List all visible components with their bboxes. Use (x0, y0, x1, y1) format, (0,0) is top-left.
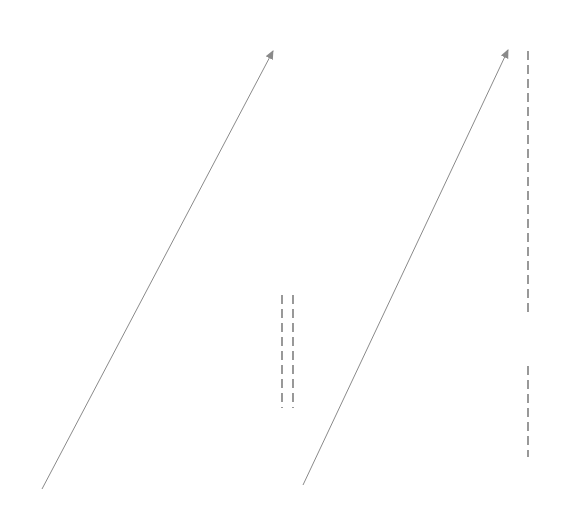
connector-overlay (0, 0, 582, 522)
arrows-group (42, 50, 508, 489)
dashed-lines-group (282, 51, 528, 457)
arrow-19-to-20 (42, 51, 273, 489)
arrow-102-to-103 (303, 50, 508, 485)
